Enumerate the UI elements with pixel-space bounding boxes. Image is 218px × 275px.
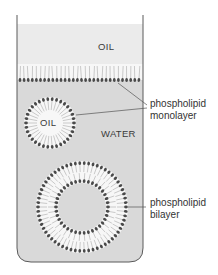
oil-layer	[17, 24, 143, 66]
bilayer-label-line2: bilayer	[150, 209, 206, 221]
tail-zone	[17, 64, 143, 80]
monolayer-label: phospholipid monolayer	[150, 98, 206, 122]
oil-droplet-label: OIL	[40, 117, 56, 128]
water-label: WATER	[101, 128, 136, 139]
oil-top-label: OIL	[98, 41, 114, 52]
monolayer-label-line2: monolayer	[150, 110, 206, 122]
vesicle	[36, 161, 128, 253]
bilayer-label-line1: phospholipid	[150, 197, 206, 209]
monolayer-label-line1: phospholipid	[150, 98, 206, 110]
bilayer-label: phospholipid bilayer	[150, 197, 206, 221]
